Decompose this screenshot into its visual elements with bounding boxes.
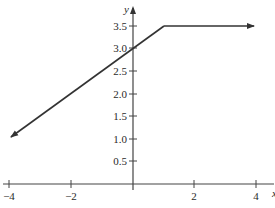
y-axis: y 0.5 1.0 1.5 2.0 2.5 3.0 3.5 bbox=[113, 3, 137, 190]
chart: −4 −2 2 4 x y 0.5 1.0 1.5 2.0 2.5 3.0 3.… bbox=[0, 0, 275, 208]
y-tick-label: 3.5 bbox=[113, 20, 127, 32]
y-tick-label: 1.5 bbox=[113, 110, 127, 122]
y-axis-label: y bbox=[123, 3, 129, 15]
y-tick-label: 2.5 bbox=[113, 65, 127, 77]
y-tick-label: 3.0 bbox=[113, 42, 127, 54]
x-tick-label: 4 bbox=[253, 190, 259, 202]
y-tick-label: 2.0 bbox=[113, 88, 127, 100]
y-tick-label: 1.0 bbox=[113, 133, 127, 145]
x-axis-label: x bbox=[271, 187, 275, 199]
left-ray bbox=[11, 26, 164, 137]
y-axis-arrow-icon bbox=[130, 6, 136, 14]
y-tick-label: 0.5 bbox=[113, 155, 127, 167]
x-axis: −4 −2 2 4 x bbox=[3, 180, 275, 202]
x-tick-label: −2 bbox=[65, 190, 77, 202]
x-tick-label: 2 bbox=[191, 190, 197, 202]
x-tick-label: −4 bbox=[3, 190, 15, 202]
